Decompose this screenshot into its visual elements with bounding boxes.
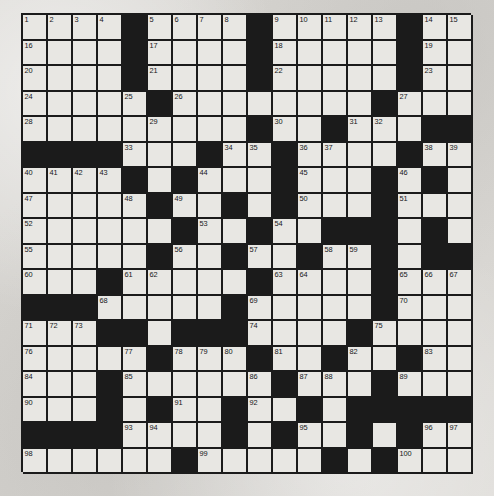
grid-letter-cell[interactable]: 38 xyxy=(423,143,448,169)
grid-letter-cell[interactable] xyxy=(323,66,348,92)
grid-letter-cell[interactable] xyxy=(123,245,148,271)
grid-letter-cell[interactable]: 39 xyxy=(448,143,473,169)
grid-letter-cell[interactable]: 25 xyxy=(123,92,148,118)
grid-letter-cell[interactable] xyxy=(73,398,98,424)
grid-letter-cell[interactable] xyxy=(448,219,473,245)
grid-letter-cell[interactable] xyxy=(73,219,98,245)
grid-letter-cell[interactable] xyxy=(348,296,373,322)
crossword-grid[interactable]: 1234567891011121314151617181920212223242… xyxy=(21,13,471,472)
grid-letter-cell[interactable] xyxy=(348,168,373,194)
grid-letter-cell[interactable] xyxy=(398,321,423,347)
grid-letter-cell[interactable] xyxy=(398,245,423,271)
grid-letter-cell[interactable] xyxy=(423,372,448,398)
grid-letter-cell[interactable] xyxy=(323,41,348,67)
grid-letter-cell[interactable] xyxy=(73,372,98,398)
grid-letter-cell[interactable] xyxy=(223,219,248,245)
grid-letter-cell[interactable] xyxy=(448,92,473,118)
grid-letter-cell[interactable]: 60 xyxy=(23,270,48,296)
grid-letter-cell[interactable]: 50 xyxy=(298,194,323,220)
grid-letter-cell[interactable] xyxy=(273,449,298,475)
grid-letter-cell[interactable] xyxy=(448,321,473,347)
grid-letter-cell[interactable] xyxy=(323,398,348,424)
grid-letter-cell[interactable] xyxy=(298,117,323,143)
grid-letter-cell[interactable]: 72 xyxy=(48,321,73,347)
grid-letter-cell[interactable] xyxy=(423,321,448,347)
grid-letter-cell[interactable]: 97 xyxy=(448,423,473,449)
grid-letter-cell[interactable]: 30 xyxy=(273,117,298,143)
grid-letter-cell[interactable] xyxy=(323,296,348,322)
grid-letter-cell[interactable]: 54 xyxy=(273,219,298,245)
grid-letter-cell[interactable] xyxy=(223,92,248,118)
grid-letter-cell[interactable] xyxy=(223,66,248,92)
grid-letter-cell[interactable]: 8 xyxy=(223,15,248,41)
grid-letter-cell[interactable] xyxy=(448,41,473,67)
grid-letter-cell[interactable]: 9 xyxy=(273,15,298,41)
grid-letter-cell[interactable] xyxy=(423,449,448,475)
grid-letter-cell[interactable]: 43 xyxy=(98,168,123,194)
grid-letter-cell[interactable]: 84 xyxy=(23,372,48,398)
grid-letter-cell[interactable] xyxy=(373,143,398,169)
grid-letter-cell[interactable] xyxy=(448,296,473,322)
grid-letter-cell[interactable] xyxy=(348,372,373,398)
grid-letter-cell[interactable] xyxy=(48,219,73,245)
grid-letter-cell[interactable] xyxy=(123,449,148,475)
grid-letter-cell[interactable]: 40 xyxy=(23,168,48,194)
grid-letter-cell[interactable]: 64 xyxy=(298,270,323,296)
grid-letter-cell[interactable] xyxy=(173,41,198,67)
grid-letter-cell[interactable]: 65 xyxy=(398,270,423,296)
grid-letter-cell[interactable]: 71 xyxy=(23,321,48,347)
grid-letter-cell[interactable] xyxy=(323,194,348,220)
grid-letter-cell[interactable]: 2 xyxy=(48,15,73,41)
grid-letter-cell[interactable]: 83 xyxy=(423,347,448,373)
grid-letter-cell[interactable] xyxy=(73,66,98,92)
grid-letter-cell[interactable] xyxy=(198,296,223,322)
grid-letter-cell[interactable]: 15 xyxy=(448,15,473,41)
grid-letter-cell[interactable] xyxy=(98,194,123,220)
grid-letter-cell[interactable] xyxy=(248,449,273,475)
grid-letter-cell[interactable] xyxy=(373,423,398,449)
grid-letter-cell[interactable] xyxy=(73,245,98,271)
grid-letter-cell[interactable] xyxy=(48,66,73,92)
grid-letter-cell[interactable] xyxy=(223,117,248,143)
grid-letter-cell[interactable] xyxy=(173,423,198,449)
grid-letter-cell[interactable] xyxy=(73,194,98,220)
grid-letter-cell[interactable] xyxy=(448,66,473,92)
grid-letter-cell[interactable] xyxy=(373,347,398,373)
grid-letter-cell[interactable] xyxy=(448,372,473,398)
grid-letter-cell[interactable]: 44 xyxy=(198,168,223,194)
grid-letter-cell[interactable] xyxy=(173,296,198,322)
grid-letter-cell[interactable]: 62 xyxy=(148,270,173,296)
grid-letter-cell[interactable]: 6 xyxy=(173,15,198,41)
grid-letter-cell[interactable] xyxy=(98,449,123,475)
grid-letter-cell[interactable] xyxy=(123,219,148,245)
grid-letter-cell[interactable] xyxy=(298,321,323,347)
grid-letter-cell[interactable] xyxy=(448,194,473,220)
grid-letter-cell[interactable] xyxy=(273,321,298,347)
grid-letter-cell[interactable]: 55 xyxy=(23,245,48,271)
grid-letter-cell[interactable] xyxy=(48,347,73,373)
grid-letter-cell[interactable]: 22 xyxy=(273,66,298,92)
grid-letter-cell[interactable] xyxy=(48,194,73,220)
grid-letter-cell[interactable] xyxy=(148,449,173,475)
grid-letter-cell[interactable]: 59 xyxy=(348,245,373,271)
grid-letter-cell[interactable]: 27 xyxy=(398,92,423,118)
grid-letter-cell[interactable]: 93 xyxy=(123,423,148,449)
grid-letter-cell[interactable] xyxy=(198,194,223,220)
grid-letter-cell[interactable]: 76 xyxy=(23,347,48,373)
grid-letter-cell[interactable]: 17 xyxy=(148,41,173,67)
grid-letter-cell[interactable] xyxy=(273,296,298,322)
grid-letter-cell[interactable]: 91 xyxy=(173,398,198,424)
grid-letter-cell[interactable] xyxy=(398,117,423,143)
grid-letter-cell[interactable]: 42 xyxy=(73,168,98,194)
grid-letter-cell[interactable]: 100 xyxy=(398,449,423,475)
grid-letter-cell[interactable]: 5 xyxy=(148,15,173,41)
grid-letter-cell[interactable]: 96 xyxy=(423,423,448,449)
grid-letter-cell[interactable] xyxy=(48,117,73,143)
grid-letter-cell[interactable] xyxy=(148,321,173,347)
grid-letter-cell[interactable]: 32 xyxy=(373,117,398,143)
grid-letter-cell[interactable]: 10 xyxy=(298,15,323,41)
grid-letter-cell[interactable] xyxy=(73,117,98,143)
grid-letter-cell[interactable]: 33 xyxy=(123,143,148,169)
grid-letter-cell[interactable] xyxy=(73,92,98,118)
grid-letter-cell[interactable]: 88 xyxy=(323,372,348,398)
